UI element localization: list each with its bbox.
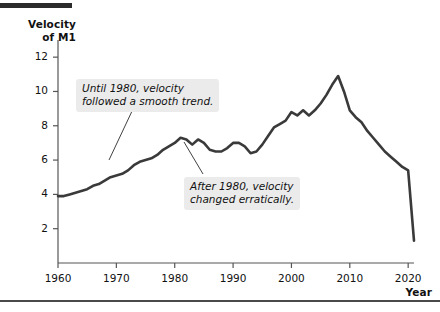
y-tick-label-10: 10 <box>22 84 48 96</box>
y-axis-title-line1: Velocity <box>28 18 76 30</box>
x-tick-label-2000: 2000 <box>271 272 311 284</box>
y-tick-label-2: 2 <box>22 222 48 234</box>
y-tick-label-6: 6 <box>22 153 48 165</box>
annotation-smooth-trend: Until 1980, velocity followed a smooth t… <box>76 79 219 112</box>
leader-line-smooth-trend <box>109 109 133 160</box>
y-axis-title: Velocity of M1 <box>12 18 76 43</box>
annotation-smooth-trend-line2: followed a smooth trend. <box>82 95 213 107</box>
x-axis-ticks <box>58 263 408 268</box>
annotation-erratic-line1: After 1980, velocity <box>190 180 294 192</box>
x-axis-title: Year <box>380 286 432 299</box>
leader-line-erratic <box>184 142 203 174</box>
top-decorative-rule <box>0 3 72 8</box>
annotation-erratic-line2: changed erratically. <box>190 193 294 205</box>
annotation-erratic: After 1980, velocity changed erratically… <box>184 177 300 210</box>
y-axis-ticks <box>53 57 58 229</box>
y-tick-label-8: 8 <box>22 119 48 131</box>
y-axis-title-line2: of M1 <box>42 31 76 43</box>
x-tick-label-1990: 1990 <box>213 272 253 284</box>
axes <box>53 40 414 268</box>
velocity-of-m1-chart-figure: Velocity of M1 12 10 8 6 4 2 1960 1970 1… <box>0 0 440 312</box>
y-tick-label-4: 4 <box>22 187 48 199</box>
annotation-smooth-trend-line1: Until 1980, velocity <box>82 82 184 94</box>
bottom-decorative-rule <box>0 300 440 302</box>
x-tick-label-1960: 1960 <box>38 272 78 284</box>
x-tick-label-2010: 2010 <box>330 272 370 284</box>
plot-area <box>0 0 440 312</box>
x-tick-label-2020: 2020 <box>388 272 428 284</box>
y-tick-label-12: 12 <box>22 50 48 62</box>
x-tick-label-1970: 1970 <box>96 272 136 284</box>
x-tick-label-1980: 1980 <box>155 272 195 284</box>
